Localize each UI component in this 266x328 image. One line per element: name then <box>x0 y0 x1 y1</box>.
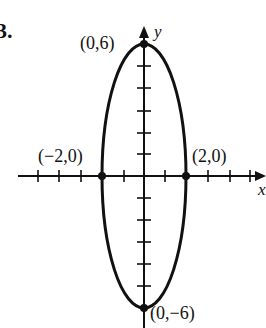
label-left-vertex: (−2,0) <box>38 146 83 167</box>
y-axis-label: y <box>154 22 162 42</box>
x-axis-label: x <box>258 180 266 200</box>
label-top-vertex: (0,6) <box>80 33 115 54</box>
label-right-vertex: (2,0) <box>192 146 227 167</box>
point-right <box>182 172 190 180</box>
y-axis-arrow-icon <box>139 26 149 38</box>
point-bottom <box>140 304 148 312</box>
problem-number: 3. <box>0 18 13 44</box>
ellipse-graph: 3. (0,6) (−2,0) (2,0) (0,−6) y x <box>0 0 266 328</box>
point-top <box>140 40 148 48</box>
point-left <box>98 172 106 180</box>
label-bottom-vertex: (0,−6) <box>150 303 195 324</box>
